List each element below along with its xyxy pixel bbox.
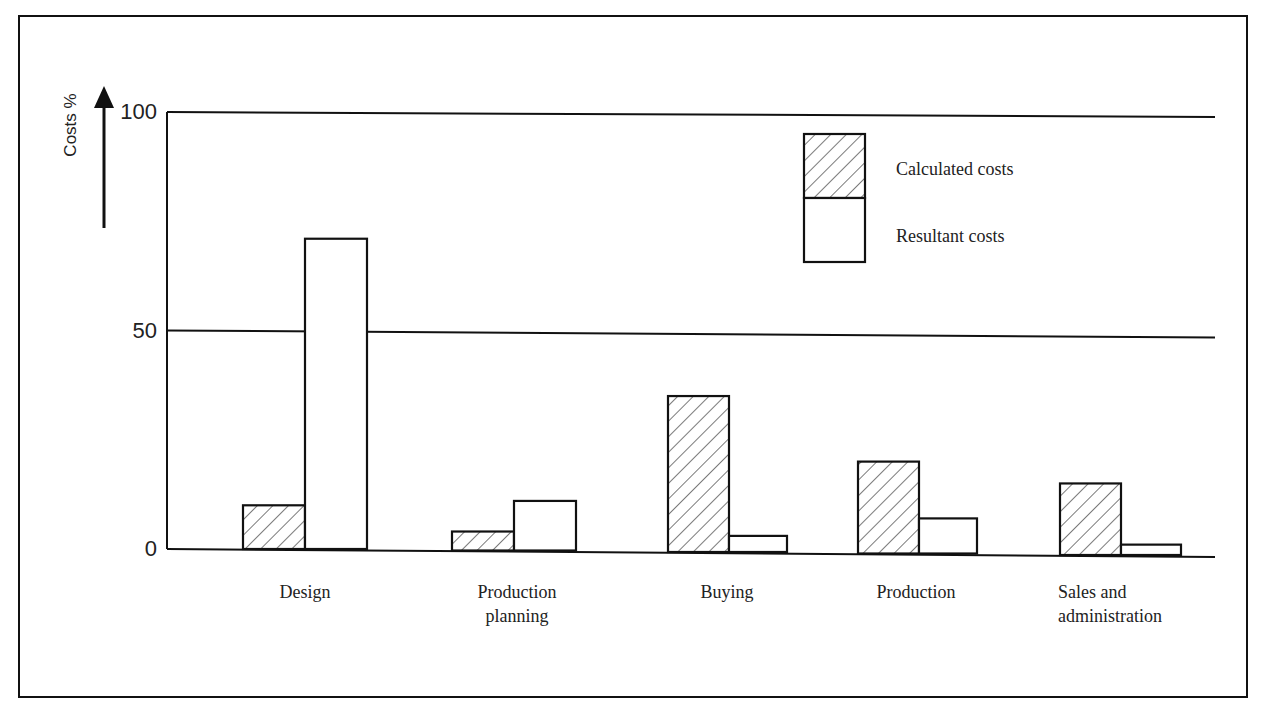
category-label: administration [1058,606,1162,626]
category-label: Sales and [1058,582,1126,602]
bar-calculated-4 [1060,483,1121,555]
y-tick-label: 50 [133,318,157,343]
bar-calculated-1 [452,532,514,551]
bar-calculated-2 [668,396,729,552]
bar-resultant-1 [514,501,576,551]
bar-resultant-4 [1121,545,1181,555]
y-tick-label: 100 [120,99,157,124]
bar-resultant-3 [919,518,977,553]
bar-chart: 050100Costs %DesignProductionplanningBuy… [0,0,1262,715]
arrow-up-icon [94,86,114,108]
legend-swatch-calculated [804,134,865,198]
legend-label-calculated: Calculated costs [896,159,1013,179]
category-label: Design [280,582,331,602]
y-axis-label: Costs % [61,93,80,156]
category-label: planning [486,606,549,626]
bar-resultant-2 [729,536,787,552]
legend-swatch-resultant [804,198,865,262]
legend-label-resultant: Resultant costs [896,226,1005,246]
gridline-100 [167,112,1215,117]
bar-calculated-0 [243,505,305,549]
bar-calculated-3 [858,462,919,554]
category-label: Buying [700,582,753,602]
category-label: Production [478,582,557,602]
category-label: Production [877,582,956,602]
bar-resultant-0 [305,239,367,549]
y-tick-label: 0 [145,536,157,561]
